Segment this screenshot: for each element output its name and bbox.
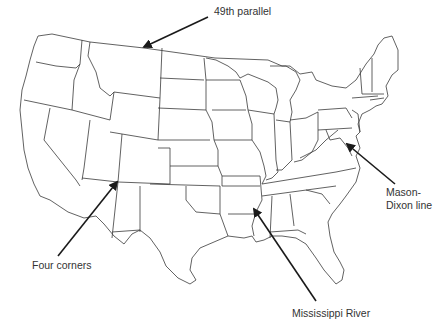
label-four-corners: Four corners [32,259,92,272]
us-map [0,0,445,334]
label-49th-parallel: 49th parallel [214,5,271,18]
label-mississippi-river: Mississippi River [292,307,370,320]
label-mason-dixon-line2: Dixon line [386,199,432,212]
label-mason-dixon-line1: Mason- [386,186,432,199]
label-mason-dixon: Mason- Dixon line [386,186,432,212]
arrow-49th-parallel [144,17,208,47]
us-outline [20,34,398,284]
